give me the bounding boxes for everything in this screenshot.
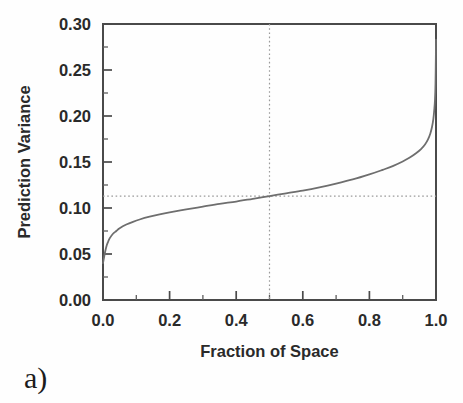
y-tick-label: 0.00 xyxy=(59,291,91,309)
x-axis-title: Fraction of Space xyxy=(200,342,338,360)
y-tick-label: 0.10 xyxy=(59,199,91,217)
x-tick-label: 0.0 xyxy=(92,311,115,329)
y-tick-label: 0.25 xyxy=(59,61,91,79)
figure-page: 0.000.050.100.150.200.250.30 0.00.20.40.… xyxy=(0,0,463,403)
y-tick-label: 0.20 xyxy=(59,107,91,125)
fds-plot-figure: 0.000.050.100.150.200.250.30 0.00.20.40.… xyxy=(0,0,463,403)
x-tick-label: 0.2 xyxy=(158,311,181,329)
y-tick-label: 0.05 xyxy=(59,245,91,263)
x-tick-label: 0.6 xyxy=(291,311,314,329)
panel-label: a) xyxy=(24,361,47,395)
y-tick-label: 0.30 xyxy=(59,15,91,33)
y-axis-title: Prediction Variance xyxy=(15,85,33,238)
x-tick-label: 1.0 xyxy=(425,311,448,329)
y-tick-label: 0.15 xyxy=(59,153,91,171)
x-tick-label: 0.8 xyxy=(358,311,381,329)
x-tick-label: 0.4 xyxy=(225,311,249,329)
